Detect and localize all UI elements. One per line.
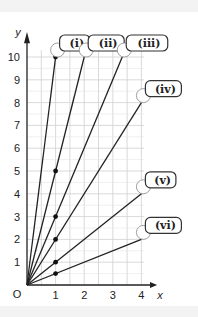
y-tick-label: 7 — [14, 119, 20, 131]
series-label: (vi) — [155, 219, 176, 232]
data-point — [53, 271, 58, 276]
series-label: (ii) — [99, 37, 118, 50]
y-axis-label: y — [14, 26, 22, 38]
series-label: (iii) — [138, 37, 161, 50]
data-point — [53, 214, 58, 219]
series-label: (v) — [154, 174, 171, 187]
x-tick-label: 4 — [138, 289, 144, 301]
series-label: (iv) — [155, 83, 176, 96]
x-tick-label: 3 — [110, 289, 116, 301]
x-axis-label: x — [156, 289, 163, 301]
y-tick-label: 1 — [14, 256, 20, 268]
line-graph: yxO123456789101234(i)(ii)(iii)(iv)(v)(vi… — [0, 0, 198, 317]
data-point — [53, 169, 58, 174]
data-point — [53, 260, 58, 265]
x-tick-label: 1 — [53, 289, 59, 301]
y-tick-label: 9 — [14, 74, 20, 86]
y-tick-label: 3 — [14, 211, 20, 223]
y-tick-label: 5 — [14, 165, 20, 177]
y-tick-label: 4 — [14, 188, 20, 200]
x-axis-arrow-icon — [150, 282, 157, 288]
y-axis-arrow-icon — [24, 32, 30, 43]
y-tick-label: 6 — [14, 142, 20, 154]
y-tick-label: 8 — [14, 97, 20, 109]
x-tick-label: 2 — [81, 289, 87, 301]
data-point — [53, 237, 58, 242]
origin-label: O — [13, 288, 22, 300]
y-tick-label: 2 — [14, 233, 20, 245]
y-tick-label: 10 — [8, 51, 20, 63]
